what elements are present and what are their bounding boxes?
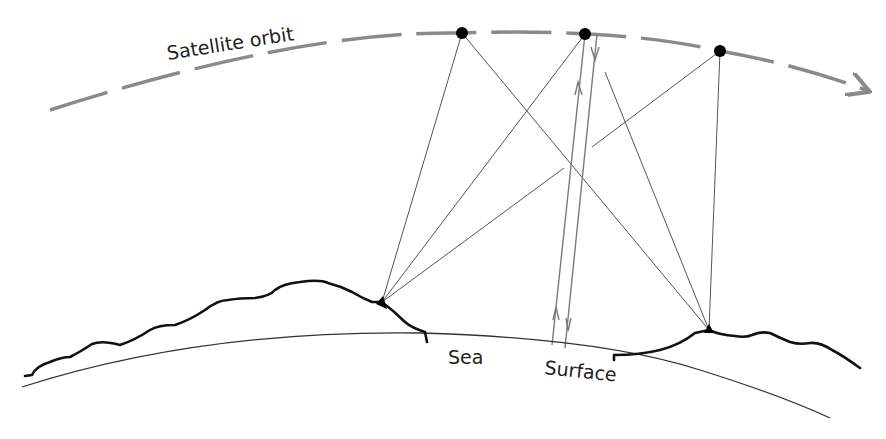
altimeter-signal bbox=[552, 34, 599, 348]
right-landmass bbox=[614, 330, 860, 368]
satellite-icon bbox=[579, 28, 591, 40]
satellite-icon bbox=[456, 27, 468, 39]
surface-label: Surface bbox=[544, 356, 618, 385]
rays-right-station bbox=[462, 33, 720, 330]
earth-surface-curve bbox=[22, 333, 830, 418]
orbit-label: Satellite orbit bbox=[165, 22, 295, 64]
left-landmass bbox=[25, 281, 427, 376]
satellite-icon bbox=[714, 45, 726, 57]
satellite-diagram: Satellite orbit Sea Surface bbox=[0, 0, 886, 439]
sea-label: Sea bbox=[448, 346, 483, 368]
rays-left-station bbox=[382, 33, 720, 302]
